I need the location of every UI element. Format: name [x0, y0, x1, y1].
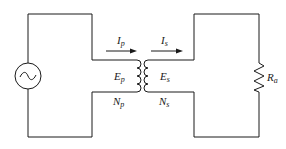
secondary-current-label: Is: [161, 35, 168, 48]
primary-turns-label: Np: [113, 96, 124, 109]
load-resistor-label: Ra: [267, 72, 278, 85]
ac-source-icon: [20, 72, 36, 79]
circuit-diagram: [0, 0, 286, 149]
primary-arrowhead-icon: [130, 49, 137, 54]
primary-coil-icon: [137, 60, 141, 92]
secondary-emf-label: Es: [160, 71, 170, 84]
primary-emf-label: Ep: [114, 71, 125, 84]
secondary-arrowhead-icon: [176, 49, 183, 54]
primary-current-label: Ip: [117, 35, 125, 48]
resistor-icon: [254, 63, 264, 92]
secondary-turns-label: Ns: [159, 96, 169, 109]
secondary-coil-icon: [144, 60, 148, 92]
